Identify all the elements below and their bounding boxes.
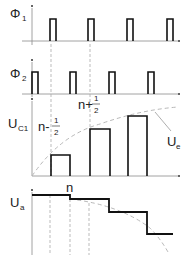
phi1-x-arrow-icon (178, 40, 180, 42)
pulse (127, 19, 133, 41)
phi2-pulses (32, 72, 154, 94)
fraction-denominator: 2 (94, 106, 99, 115)
uc1-x-arrow-icon (178, 175, 180, 177)
phi2-subscript: 2 (22, 74, 27, 83)
uc1-panel: U C1 n-12n+12 U e (8, 94, 181, 177)
fraction-numerator: 1 (94, 94, 99, 103)
fraction-numerator: 1 (54, 116, 59, 125)
ue-leader-line (155, 112, 171, 131)
pulse (109, 72, 115, 94)
step-annotation: n- (38, 119, 50, 134)
ua-step-line (32, 195, 173, 234)
ua-n-label: n (66, 180, 73, 195)
pulse (167, 19, 173, 41)
phi1-pulses (50, 19, 173, 41)
phi1-panel: Φ 1 (10, 5, 180, 45)
diagram-canvas: Φ 1 Φ 2 U C1 n-12n+12 U e (0, 0, 185, 255)
phi2-x-arrow-icon (178, 93, 180, 95)
phi2-panel: Φ 2 (10, 59, 180, 97)
pulse (70, 72, 76, 94)
ue-subscript: e (176, 142, 181, 151)
ue-label: U (167, 134, 176, 149)
fraction-denominator: 2 (54, 128, 59, 137)
uc1-axis-arrow-icon (31, 98, 33, 100)
pulse (32, 72, 38, 94)
uc1-label: U (8, 116, 17, 131)
ua-label: U (10, 195, 19, 210)
uc1-bar (51, 155, 70, 176)
ua-envelope-curve (70, 199, 168, 252)
phi2-label: Φ (10, 66, 20, 81)
uc1-bar (128, 116, 147, 176)
uc1-bar (90, 129, 110, 176)
pulse (88, 19, 94, 41)
uc1-subscript: C1 (18, 124, 29, 133)
pulse (50, 19, 56, 41)
step-annotation: n+ (78, 97, 93, 112)
ua-axis-arrow-icon (31, 189, 33, 191)
phi1-axis-arrow-icon (31, 5, 33, 7)
phi1-subscript: 1 (22, 14, 27, 23)
phi1-label: Φ (10, 6, 20, 21)
uc1-bars (51, 116, 147, 176)
ua-panel: U a n (10, 180, 173, 255)
pulse (148, 72, 154, 94)
ua-subscript: a (20, 203, 25, 212)
phi2-axis-arrow-icon (31, 59, 33, 61)
